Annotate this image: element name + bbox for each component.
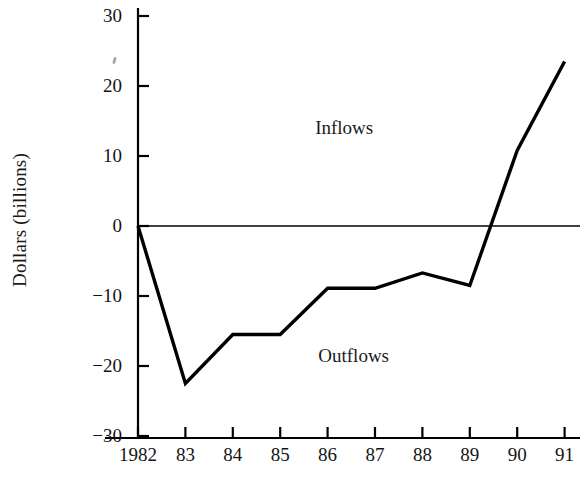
y-tick-label: 30 [62, 5, 122, 27]
x-tick-label: 89 [460, 444, 479, 466]
x-tick-label: 91 [555, 444, 574, 466]
x-tick-label: 85 [271, 444, 290, 466]
y-tick-label: −10 [62, 285, 122, 307]
x-axis-ticks [138, 427, 565, 438]
chart-figure: Dollars (billions) 3020100−10−20−30 1982… [0, 0, 587, 477]
x-tick-label: 88 [413, 444, 432, 466]
x-tick-label: 84 [223, 444, 242, 466]
y-tick-label: −20 [62, 355, 122, 377]
y-tick-label: 0 [62, 215, 122, 237]
data-series-line [138, 62, 565, 384]
y-tick-label: −30 [62, 425, 122, 447]
x-tick-label: 87 [366, 444, 385, 466]
x-tick-label: 90 [508, 444, 527, 466]
x-tick-label: 1982 [119, 444, 157, 466]
line-chart-plot [0, 0, 587, 477]
x-tick-label: 83 [176, 444, 195, 466]
plot-annotation-inflows: Inflows [315, 117, 373, 139]
plot-annotation-outflows: Outflows [318, 345, 389, 367]
y-tick-label: 10 [62, 145, 122, 167]
x-tick-label: 86 [318, 444, 337, 466]
y-tick-label: 20 [62, 75, 122, 97]
